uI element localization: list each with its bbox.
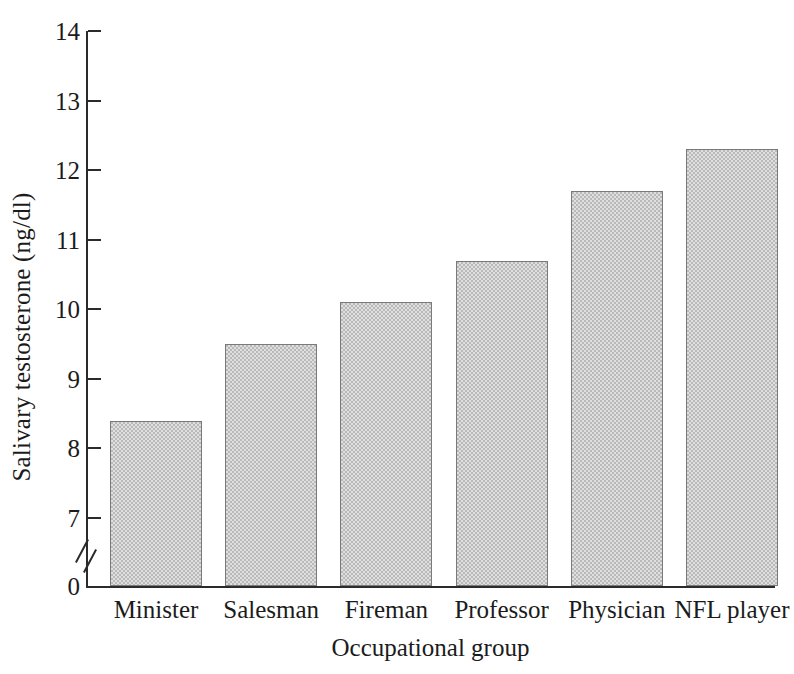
y-tick-mark-7 xyxy=(88,517,101,519)
bar-fireman xyxy=(340,302,432,586)
y-tick-label-11: 11 xyxy=(46,227,80,252)
x-tick-label-nfl-player: NFL player xyxy=(668,596,794,624)
bar-minister xyxy=(110,421,202,586)
x-tick-label-minister: Minister xyxy=(92,596,220,624)
y-tick-mark-11 xyxy=(88,239,101,241)
y-axis-title: Salivary testosterone (ng/dl) xyxy=(0,0,44,674)
y-tick-label-8: 8 xyxy=(46,436,80,461)
x-tick-label-fireman: Fireman xyxy=(322,596,450,624)
x-tick-label-professor: Professor xyxy=(438,596,566,624)
y-tick-label-13: 13 xyxy=(46,88,80,113)
bar-nfl-player xyxy=(686,149,778,586)
x-tick-label-salesman: Salesman xyxy=(207,596,335,624)
x-axis-line xyxy=(86,586,775,588)
x-tick-label-physician: Physician xyxy=(553,596,681,624)
y-tick-mark-9 xyxy=(88,378,101,380)
bar-physician xyxy=(571,191,663,586)
bar-salesman xyxy=(225,344,317,586)
x-axis-title: Occupational group xyxy=(86,634,775,662)
y-tick-mark-12 xyxy=(88,169,101,171)
y-axis-tick-labels: 0 7 8 9 10 11 12 13 14 xyxy=(42,0,80,674)
y-tick-mark-8 xyxy=(88,447,101,449)
y-tick-mark-14 xyxy=(88,30,101,32)
y-tick-mark-13 xyxy=(88,100,101,102)
y-tick-label-14: 14 xyxy=(46,19,80,44)
bar-professor xyxy=(456,261,548,586)
y-tick-label-7: 7 xyxy=(46,506,80,531)
y-tick-label-0: 0 xyxy=(46,574,80,599)
y-tick-label-10: 10 xyxy=(46,297,80,322)
plot-area xyxy=(86,20,775,588)
y-tick-label-9: 9 xyxy=(46,366,80,391)
y-tick-label-12: 12 xyxy=(46,158,80,183)
y-tick-mark-10 xyxy=(88,308,101,310)
